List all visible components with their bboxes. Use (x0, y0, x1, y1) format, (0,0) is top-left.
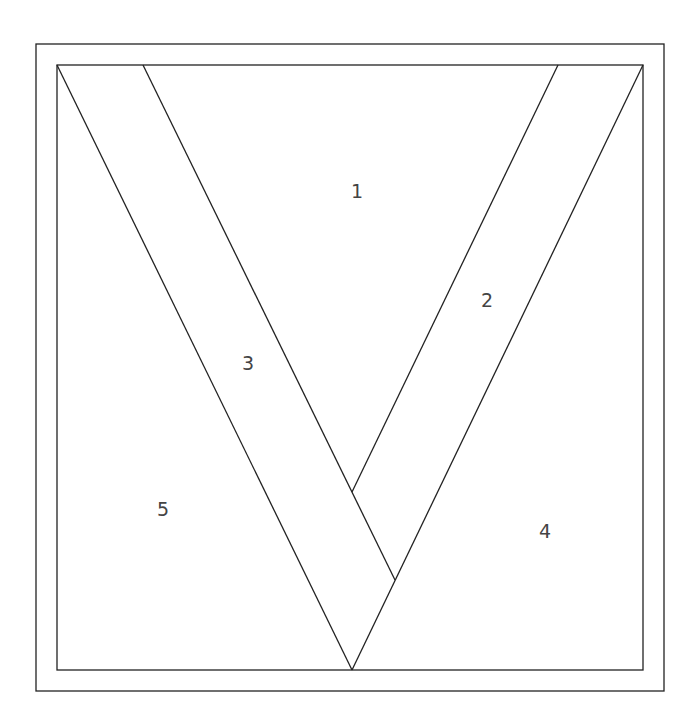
strip-3-left-edge (57, 65, 352, 670)
outer-frame (36, 44, 664, 691)
strip-2-inner-edge (352, 65, 558, 492)
piece-label-3: 3 (242, 352, 254, 374)
strip-3-right-edge (143, 65, 395, 580)
piece-label-4: 4 (539, 520, 551, 542)
piece-label-2: 2 (481, 289, 493, 311)
strip-2-outer-edge (352, 65, 643, 670)
piece-label-5: 5 (157, 498, 169, 520)
piece-label-1: 1 (351, 180, 363, 202)
pattern-diagram: 1 2 3 4 5 (0, 0, 700, 725)
inner-frame (57, 65, 643, 670)
